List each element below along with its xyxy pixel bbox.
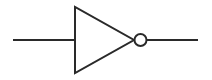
- inversion-bubble-icon: [135, 34, 147, 46]
- buffer-triangle-icon: [75, 7, 134, 73]
- diagram-canvas: NOT: [0, 0, 212, 80]
- not-gate-symbol: [0, 0, 212, 80]
